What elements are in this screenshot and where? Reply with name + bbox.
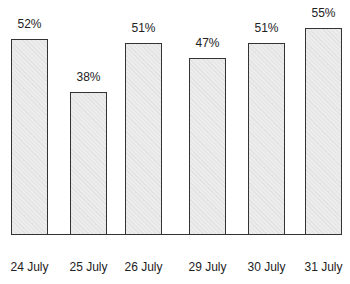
bar [305, 28, 342, 235]
category-label: 26 July [114, 260, 174, 274]
value-label: 51% [119, 21, 169, 35]
value-label: 55% [299, 6, 349, 20]
category-label: 31 July [294, 260, 350, 274]
bar-chart: 52%24 July38%25 July51%26 July47%29 July… [0, 0, 350, 284]
value-label: 51% [242, 21, 292, 35]
bar [125, 43, 162, 235]
category-label: 30 July [237, 260, 297, 274]
bar [189, 58, 226, 235]
value-label: 52% [5, 17, 55, 31]
category-label: 29 July [178, 260, 238, 274]
x-axis-line [11, 234, 342, 235]
bar [70, 92, 107, 235]
value-label: 38% [64, 70, 114, 84]
category-label: 25 July [59, 260, 119, 274]
bar [248, 43, 285, 235]
category-label: 24 July [0, 260, 60, 274]
value-label: 47% [183, 36, 233, 50]
bar [11, 39, 48, 235]
